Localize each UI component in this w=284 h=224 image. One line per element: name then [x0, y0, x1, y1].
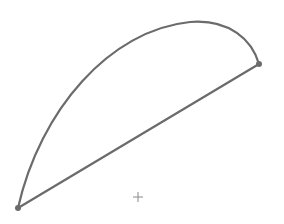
end-point — [256, 61, 262, 67]
arc-curve — [18, 22, 259, 208]
start-point — [15, 205, 21, 211]
chord-line — [18, 64, 259, 208]
center-marker-icon — [133, 192, 143, 202]
diagram-svg — [0, 0, 284, 224]
diagram-canvas — [0, 0, 284, 224]
